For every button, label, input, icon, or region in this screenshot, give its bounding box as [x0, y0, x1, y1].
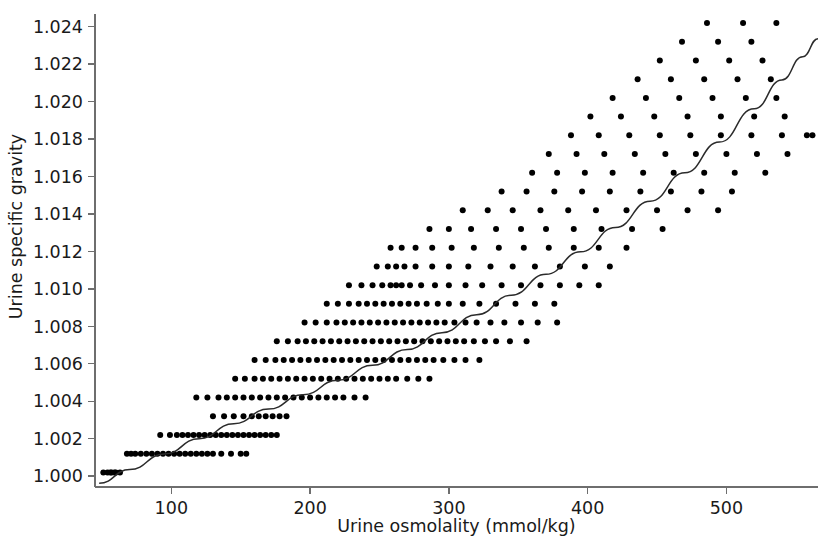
data-point — [328, 338, 334, 344]
data-point — [400, 320, 406, 326]
data-point — [507, 338, 513, 344]
y-tick-label: 1.004 — [33, 391, 83, 411]
data-point — [363, 394, 369, 400]
data-point — [461, 338, 467, 344]
data-point — [718, 132, 724, 138]
data-point — [385, 376, 391, 382]
data-point — [315, 394, 321, 400]
data-point — [726, 57, 732, 63]
data-point — [429, 245, 435, 251]
data-point — [289, 357, 295, 363]
data-point — [397, 357, 403, 363]
data-point — [342, 320, 348, 326]
data-point — [426, 226, 432, 232]
data-point — [593, 207, 599, 213]
data-point — [352, 394, 358, 400]
y-tick-label: 1.024 — [33, 17, 83, 37]
data-point — [407, 282, 413, 288]
data-point — [318, 376, 324, 382]
y-axis-title: Urine specific gravity — [6, 134, 26, 319]
data-point — [179, 432, 185, 438]
data-point — [718, 114, 724, 120]
data-point — [422, 357, 428, 363]
data-point — [782, 114, 788, 120]
data-point — [743, 95, 749, 101]
data-point — [263, 357, 269, 363]
y-tick-label: 1.022 — [33, 54, 83, 74]
data-point — [232, 394, 238, 400]
data-point — [332, 394, 338, 400]
data-point — [263, 432, 269, 438]
data-point — [177, 451, 183, 457]
data-point — [358, 282, 364, 288]
data-point — [399, 245, 405, 251]
data-point — [229, 432, 235, 438]
data-point — [729, 189, 735, 195]
data-point — [532, 263, 538, 269]
data-point — [524, 338, 530, 344]
data-point — [557, 282, 563, 288]
data-point — [310, 376, 316, 382]
data-point — [685, 207, 691, 213]
data-point — [346, 282, 352, 288]
data-point — [297, 357, 303, 363]
data-point — [303, 338, 309, 344]
data-point — [685, 114, 691, 120]
data-point — [383, 320, 389, 326]
data-point — [657, 57, 663, 63]
x-tick-label: 500 — [710, 498, 743, 518]
data-point — [453, 338, 459, 344]
data-point — [252, 432, 258, 438]
data-point — [157, 432, 163, 438]
data-point — [413, 263, 419, 269]
data-point — [446, 263, 452, 269]
data-point — [413, 245, 419, 251]
data-point — [324, 394, 330, 400]
data-point — [389, 301, 395, 307]
data-point — [386, 338, 392, 344]
data-point — [571, 226, 577, 232]
data-point — [418, 282, 424, 288]
y-tick-label: 1.008 — [33, 317, 83, 337]
data-point — [476, 301, 482, 307]
data-point — [568, 132, 574, 138]
data-point — [596, 132, 602, 138]
data-point — [582, 263, 588, 269]
data-point — [399, 282, 405, 288]
data-point — [307, 394, 313, 400]
data-point — [352, 376, 358, 382]
data-point — [442, 320, 448, 326]
data-point — [335, 301, 341, 307]
data-point — [246, 432, 252, 438]
data-point — [668, 189, 674, 195]
data-point — [693, 151, 699, 157]
data-point — [417, 320, 423, 326]
data-point — [368, 376, 374, 382]
data-point — [228, 451, 234, 457]
data-point — [356, 301, 362, 307]
data-point — [221, 413, 227, 419]
data-point — [238, 451, 244, 457]
data-point — [395, 338, 401, 344]
data-point — [393, 263, 399, 269]
data-point — [224, 432, 230, 438]
data-point — [435, 301, 441, 307]
data-point — [779, 132, 785, 138]
data-point — [482, 338, 488, 344]
data-point — [257, 394, 263, 400]
data-point — [701, 170, 707, 176]
data-point — [529, 170, 535, 176]
data-point — [397, 301, 403, 307]
data-point — [518, 226, 524, 232]
data-point — [193, 451, 199, 457]
y-tick-label: 1.018 — [33, 129, 83, 149]
data-point — [537, 207, 543, 213]
data-point — [231, 413, 237, 419]
data-point — [579, 189, 585, 195]
data-point — [274, 338, 280, 344]
data-point — [554, 170, 560, 176]
data-point — [378, 338, 384, 344]
data-point — [210, 451, 216, 457]
data-point — [224, 394, 230, 400]
data-point — [376, 376, 382, 382]
